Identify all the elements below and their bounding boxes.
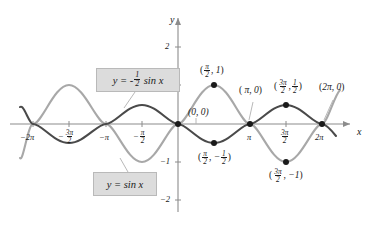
xtick-pi: π bbox=[247, 133, 251, 142]
marker-pi-zero bbox=[247, 121, 253, 127]
x-axis-arrow bbox=[343, 121, 350, 127]
legend-label-neg-half-sin-lead: y = - bbox=[113, 75, 134, 86]
legend-frac-den: 2 bbox=[134, 79, 140, 88]
legend-callout-neg-half-sin[interactable]: y = -12 sin x bbox=[96, 68, 180, 92]
point-label-pi-over-2-one: (π2, 1) bbox=[200, 63, 224, 80]
ytick-neg-1: −1 bbox=[160, 157, 170, 166]
marker-pi-over-2-one bbox=[211, 82, 217, 88]
marker-pi-over-2-neg-half bbox=[211, 140, 217, 146]
legend-frac-num: 1 bbox=[134, 71, 140, 79]
legend-label-sin: y = sin x bbox=[107, 179, 144, 190]
leader-sin bbox=[120, 158, 128, 172]
xtick-neg-2pi: −2π bbox=[20, 133, 34, 142]
leader-pi-zero bbox=[249, 102, 253, 120]
legend-label-neg-half-sin-tail: sin x bbox=[144, 75, 164, 86]
point-label-pi-zero: ( π, 0) bbox=[239, 86, 262, 96]
xtick-neg-pi: −π bbox=[99, 133, 109, 142]
point-label-3pi-over-2-half: (3π2,12) bbox=[274, 79, 302, 96]
ytick-2: 2 bbox=[165, 42, 169, 51]
xtick-3pi-over-2: 3π2 bbox=[279, 129, 290, 146]
marker-3pi-over-2-half bbox=[283, 102, 289, 108]
point-label-pi-over-2-neg-half: (π2, −12) bbox=[198, 150, 231, 167]
legend-callout-sin[interactable]: y = sin x bbox=[93, 172, 157, 196]
xtick-neg-pi-over-2: −π2 bbox=[133, 129, 146, 146]
y-axis-label: y bbox=[170, 14, 174, 25]
xtick-2pi: 2π bbox=[315, 133, 324, 142]
x-axis-label: x bbox=[357, 126, 361, 137]
leader-halfsin bbox=[124, 92, 135, 108]
marker-2pi-zero bbox=[319, 121, 325, 127]
xtick-neg-3pi-over-2: −3π2 bbox=[58, 129, 75, 146]
marker-origin bbox=[175, 121, 181, 127]
y-axis-arrow bbox=[175, 18, 181, 25]
point-label-2pi-zero: (2π, 0) bbox=[319, 83, 344, 93]
marker-3pi-over-2-neg-one bbox=[283, 159, 289, 165]
point-label-origin: (0, 0) bbox=[188, 108, 209, 118]
figure-canvas: y x −2π −3π2 −π −π2 π 3π2 2π 2 1 −1 −2 (… bbox=[0, 0, 379, 230]
ytick-neg-2: −2 bbox=[160, 195, 170, 204]
point-label-3pi-over-2-neg-one: (3π2, −1) bbox=[269, 168, 303, 185]
leader-2pi-zero bbox=[324, 100, 333, 120]
